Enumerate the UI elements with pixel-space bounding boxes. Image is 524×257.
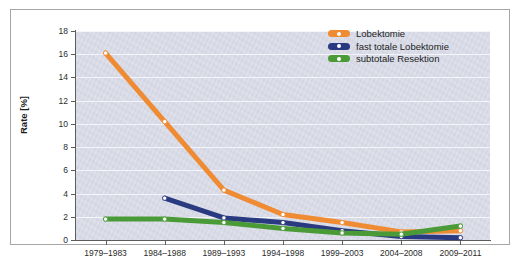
- x-tick-label: 1979–1983: [84, 249, 127, 257]
- data-point-marker: [458, 229, 462, 233]
- data-point-marker: [399, 232, 403, 236]
- y-tick-label: 4: [63, 189, 68, 198]
- legend-swatch-icon: [328, 55, 350, 62]
- legend-item[interactable]: fast totale Lobektomie: [328, 42, 449, 52]
- legend-marker-dot: [337, 57, 341, 61]
- y-tick-label: 0: [63, 236, 68, 245]
- data-point-marker: [458, 236, 462, 240]
- data-point-marker: [222, 216, 226, 220]
- series-subtotale-resektion: [103, 217, 462, 236]
- y-tick-label: 8: [63, 143, 68, 152]
- series-line: [106, 53, 461, 232]
- legend-label: Lobektomie: [356, 29, 405, 39]
- legend-swatch-icon: [328, 30, 350, 37]
- chart-legend: Lobektomiefast totale Lobektomiesubtotal…: [328, 29, 449, 64]
- data-point-marker: [340, 220, 344, 224]
- legend-item[interactable]: Lobektomie: [328, 29, 449, 39]
- x-tick-label: 1989–1993: [203, 249, 246, 257]
- x-tick-mark: [342, 240, 343, 245]
- data-point-marker: [103, 217, 107, 221]
- x-tick-label: 1984–1988: [143, 249, 186, 257]
- x-tick-mark: [106, 240, 107, 245]
- data-point-marker: [281, 220, 285, 224]
- legend-label: fast totale Lobektomie: [356, 42, 449, 52]
- y-tick-label: 12: [59, 96, 68, 105]
- x-tick-label: 1999–2003: [321, 249, 364, 257]
- data-point-marker: [458, 224, 462, 228]
- y-tick-label: 2: [63, 213, 68, 222]
- y-tick-label: 10: [59, 120, 68, 129]
- x-tick-label: 1994–1998: [262, 249, 305, 257]
- x-tick-mark: [460, 240, 461, 245]
- y-tick-mark: [71, 240, 76, 241]
- y-tick-label: 16: [59, 50, 68, 59]
- x-tick-mark: [283, 240, 284, 245]
- y-tick-label: 18: [59, 27, 68, 36]
- data-point-marker: [103, 51, 107, 55]
- y-axis-title: Rate [%]: [18, 96, 29, 134]
- chart-figure-panel: Rate [%] 024681012141618 1979–19831984–1…: [10, 9, 510, 245]
- data-point-marker: [222, 188, 226, 192]
- data-point-marker: [163, 217, 167, 221]
- legend-marker-dot: [337, 32, 341, 36]
- data-point-marker: [222, 220, 226, 224]
- data-point-marker: [163, 196, 167, 200]
- x-tick-label: 2004–2008: [380, 249, 423, 257]
- legend-marker-dot: [337, 44, 341, 48]
- data-point-marker: [340, 231, 344, 235]
- y-tick-label: 6: [63, 166, 68, 175]
- legend-swatch-icon: [328, 43, 350, 50]
- legend-item[interactable]: subtotale Resektion: [328, 54, 449, 64]
- y-tick-label: 14: [59, 73, 68, 82]
- data-point-marker: [163, 119, 167, 123]
- data-point-marker: [281, 212, 285, 216]
- x-tick-mark: [224, 240, 225, 245]
- legend-label: subtotale Resektion: [356, 54, 439, 64]
- x-tick-mark: [165, 240, 166, 245]
- x-tick-label: 2009–2011: [439, 249, 481, 257]
- x-tick-mark: [401, 240, 402, 245]
- data-point-marker: [281, 226, 285, 230]
- series-lobektomie: [103, 51, 462, 234]
